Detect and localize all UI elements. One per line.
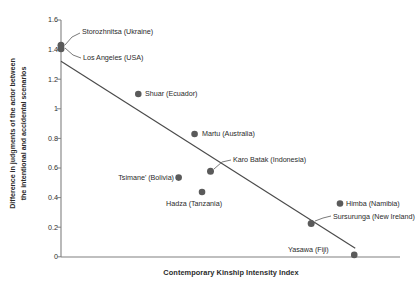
y-tick-marks [57, 20, 61, 257]
point-label-hadza: Hadza (Tanzania) [166, 199, 222, 208]
data-point [191, 131, 198, 138]
data-point [175, 174, 182, 181]
data-point [337, 200, 344, 207]
x-axis-title: Contemporary Kinship Intensity Index [61, 268, 401, 277]
data-point [58, 45, 65, 52]
scatter-plot-figure: Difference in judgments of the actor bet… [0, 0, 419, 285]
point-label-martu: Martu (Australia) [202, 129, 255, 138]
data-point-markers [58, 42, 358, 259]
point-label-yasawa: Yasawa (Fiji) [288, 245, 329, 254]
data-point [351, 252, 358, 259]
data-point [207, 168, 214, 175]
data-point [308, 220, 315, 227]
plot-canvas [0, 0, 419, 285]
point-label-himba: Himba (Namibia) [346, 199, 400, 208]
point-label-los-angeles: Los Angeles (USA) [83, 53, 143, 62]
data-point [199, 189, 206, 196]
data-point [135, 91, 142, 98]
point-label-storozhnitsa: Storozhnitsa (Ukraine) [82, 27, 153, 36]
point-label-tsimane: Tsimane' (Bolivia) [92, 173, 174, 182]
point-label-sursurunga: Sursurunga (New Ireland) [333, 212, 415, 221]
point-label-shuar: Shuar (Ecuador) [145, 89, 197, 98]
point-label-karo-batak: Karo Batak (Indonesia) [233, 155, 306, 164]
